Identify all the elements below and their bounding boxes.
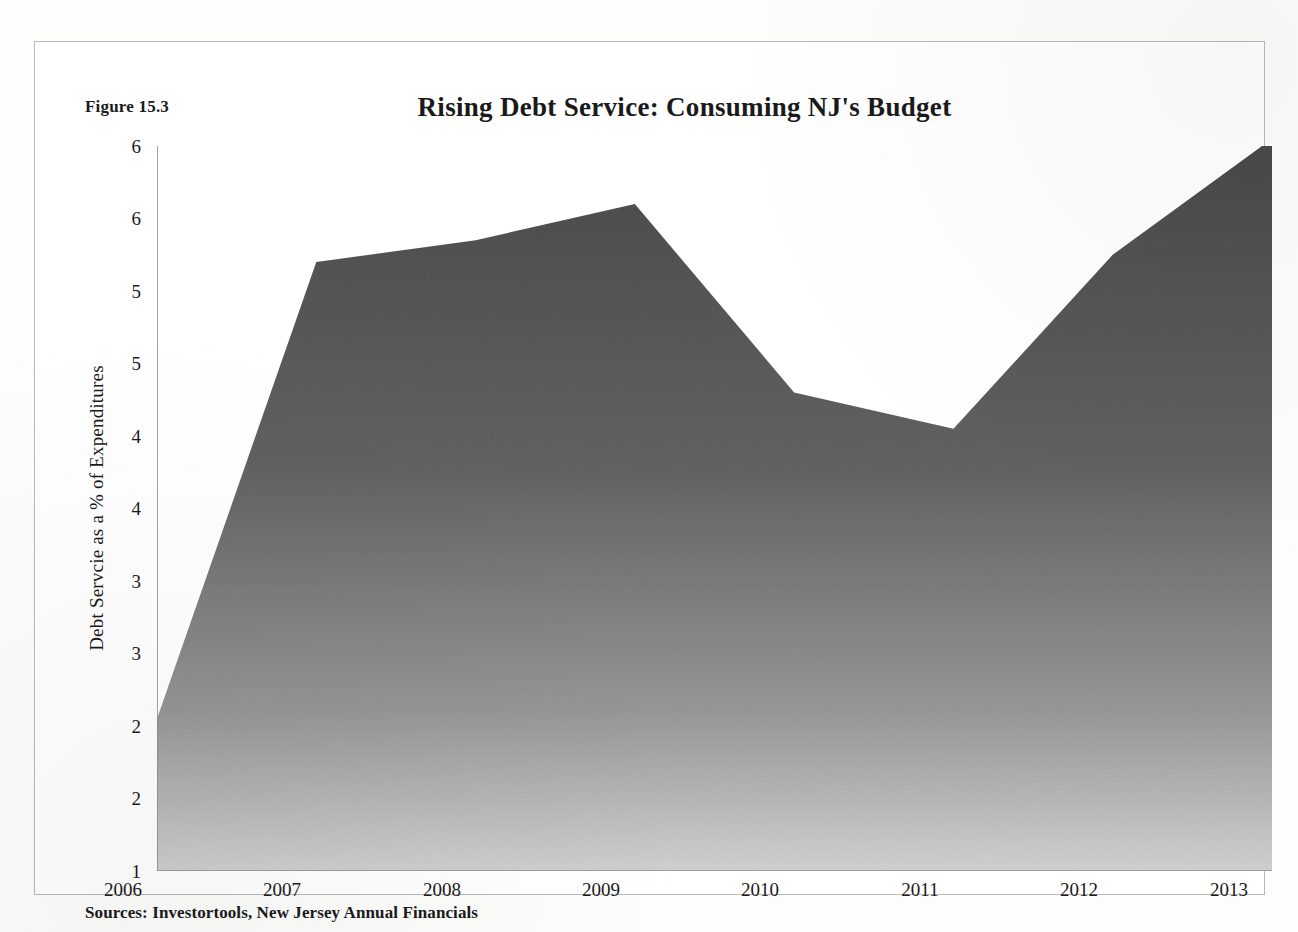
y-tick-label-5.0: 5 xyxy=(105,282,141,301)
source-note: Sources: Investortools, New Jersey Annua… xyxy=(85,903,478,923)
x-tick-label-2008: 2008 xyxy=(397,880,487,899)
x-tick-label-2012: 2012 xyxy=(1034,880,1124,899)
plot-area xyxy=(157,146,1272,871)
x-tick-label-2013: 2013 xyxy=(1184,880,1274,899)
y-tick-label-3.5: 4 xyxy=(105,499,141,518)
scanned-page: Rising Debt Service: Consuming NJ's Budg… xyxy=(0,0,1298,932)
y-tick-label-2.5: 3 xyxy=(105,644,141,663)
x-tick-label-2007: 2007 xyxy=(237,880,327,899)
area-chart-svg xyxy=(157,146,1272,871)
figure-frame: Rising Debt Service: Consuming NJ's Budg… xyxy=(34,41,1265,895)
y-tick-label-3.0: 3 xyxy=(105,572,141,591)
x-tick-label-2009: 2009 xyxy=(556,880,646,899)
y-tick-label-4.0: 4 xyxy=(105,427,141,446)
x-tick-label-2011: 2011 xyxy=(875,880,965,899)
x-tick-label-2006: 2006 xyxy=(78,880,168,899)
chart-title: Rising Debt Service: Consuming NJ's Budg… xyxy=(69,92,1298,123)
y-tick-label-1.5: 2 xyxy=(105,789,141,808)
y-tick-label-5.5: 6 xyxy=(105,209,141,228)
figure-number-label: Figure 15.3 xyxy=(85,97,169,117)
y-tick-label-4.5: 5 xyxy=(105,354,141,373)
area-series-fill xyxy=(157,146,1272,871)
y-tick-label-6.0: 6 xyxy=(105,137,141,156)
y-tick-label-2.0: 2 xyxy=(105,717,141,736)
x-tick-label-2010: 2010 xyxy=(715,880,805,899)
